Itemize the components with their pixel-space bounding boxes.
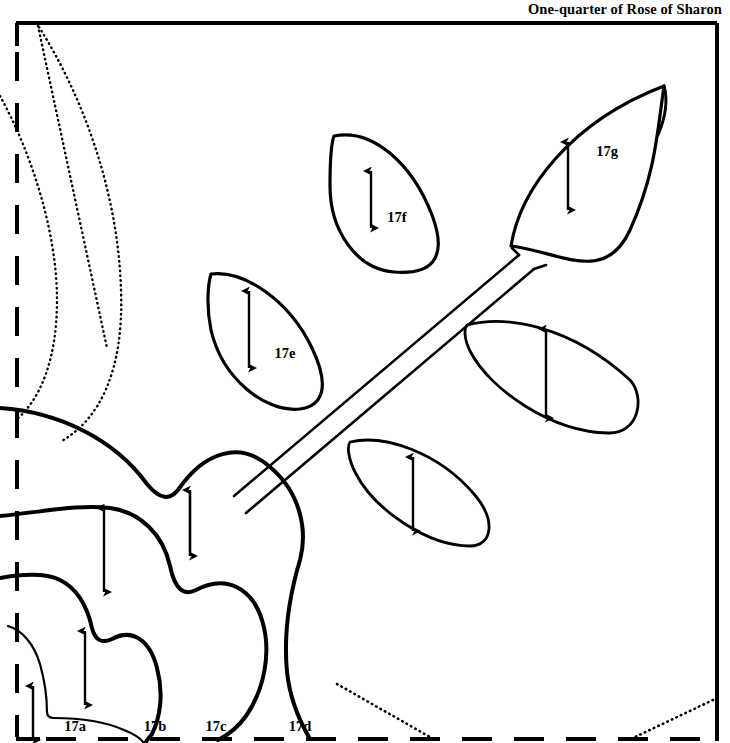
pattern-page: One-quarter of Rose of Sharon bbox=[0, 0, 730, 743]
piece-label-17b: 17b bbox=[144, 718, 167, 734]
leaf-right-unlabeled bbox=[465, 322, 638, 433]
pattern-drawing: 17a 17b 17c 17d 17e 17f 17g bbox=[0, 0, 730, 743]
placement-guide-diagonal-bottom-left bbox=[337, 684, 430, 737]
placement-guide-outer bbox=[39, 27, 121, 442]
petal-17d bbox=[0, 408, 310, 739]
leaf-17f bbox=[330, 135, 438, 273]
placement-guide-diagonal-top bbox=[38, 26, 107, 348]
piece-label-17g: 17g bbox=[596, 143, 619, 159]
piece-label-17d: 17d bbox=[289, 718, 312, 734]
piece-label-17c: 17c bbox=[206, 718, 228, 734]
placement-guide-diagonal-bottom-right bbox=[635, 700, 713, 737]
leaf-17g bbox=[511, 86, 664, 261]
leaf-17e bbox=[208, 274, 322, 410]
stem-outer-edge bbox=[234, 255, 519, 496]
petal-17c bbox=[0, 507, 266, 740]
piece-label-17a: 17a bbox=[64, 718, 87, 734]
leaf-lower-unlabeled bbox=[348, 440, 489, 546]
stem-inner-edge bbox=[246, 269, 534, 513]
placement-guide-inner bbox=[0, 96, 57, 420]
petal-17b bbox=[0, 575, 161, 743]
piece-label-17e: 17e bbox=[275, 345, 297, 361]
piece-label-17f: 17f bbox=[387, 209, 407, 225]
